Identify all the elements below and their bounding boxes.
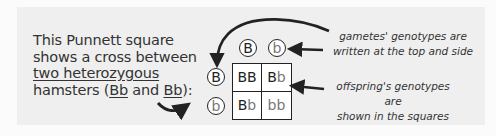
- arrow-to-top-gamete-icon: [292, 49, 323, 50]
- arrow-to-offspring-cell-icon: [294, 86, 324, 89]
- arrows-layer: [0, 0, 496, 136]
- curved-arrow-to-side-gamete-icon: [217, 19, 329, 63]
- curved-arrow-to-square-icon: [158, 103, 186, 111]
